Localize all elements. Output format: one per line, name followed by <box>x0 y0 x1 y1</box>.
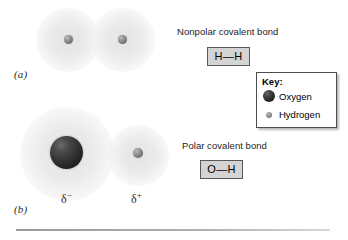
legend-key-box: Key: Oxygen Hydrogen <box>256 72 337 128</box>
hydrogen-sphere-icon <box>266 112 272 118</box>
partial-charge-positive: δ+ <box>131 192 142 207</box>
charge-sign-positive: + <box>137 190 142 200</box>
atom-hydrogen-left <box>64 35 73 44</box>
nonpolar-bond-formula-chip: H—H <box>207 47 250 66</box>
legend-label-hydrogen: Hydrogen <box>279 109 320 120</box>
atom-hydrogen-right <box>118 35 127 44</box>
polar-bond-caption: Polar covalent bond <box>182 140 267 151</box>
partial-charge-negative: δ− <box>61 192 72 207</box>
legend-title: Key: <box>262 76 283 87</box>
atom-oxygen <box>50 136 83 169</box>
covalent-bond-figure: (a) Nonpolar covalent bond H—H δ− δ+ (b)… <box>0 0 348 240</box>
legend-item-hydrogen: Hydrogen <box>263 109 320 120</box>
oxygen-sphere-icon <box>263 90 275 102</box>
figure-bottom-rule <box>16 229 330 231</box>
polar-bond-formula-chip: O—H <box>200 160 243 179</box>
nonpolar-bond-caption: Nonpolar covalent bond <box>177 26 278 37</box>
legend-item-oxygen: Oxygen <box>263 90 312 102</box>
panel-label-a: (a) <box>14 68 27 80</box>
panel-label-b: (b) <box>14 203 27 215</box>
legend-label-oxygen: Oxygen <box>279 91 312 102</box>
atom-hydrogen-polar <box>133 148 143 158</box>
charge-sign-negative: − <box>67 190 72 200</box>
